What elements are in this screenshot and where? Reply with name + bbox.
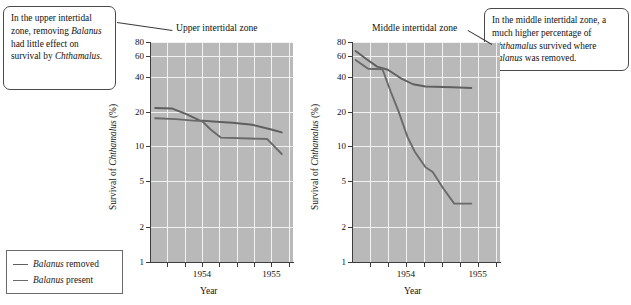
legend-swatch-removed [13,264,28,265]
y-tick-label: 20 [124,107,144,117]
y-tick-label: 10 [124,141,144,151]
y-axis-title: Survival of Chthamalus (%) [310,104,320,210]
x-tick-label: 1954 [397,269,415,279]
legend-label-present: Balanus present [33,275,93,285]
chart-title: Upper intertidal zone [176,22,258,33]
chart-title: Middle intertidal zone [372,22,457,33]
y-tick-label: 10 [326,141,346,151]
x-tick-label: 1954 [193,269,211,279]
x-tick-label: 1955 [262,269,280,279]
series-line [155,118,282,154]
y-tick-label: 80 [326,37,346,47]
plot-area: 125102040608019541955 [352,42,500,262]
series-line [356,60,472,204]
y-tick-label: 2 [124,222,144,232]
y-tick-label: 2 [326,222,346,232]
x-axis-title: Year [404,286,422,296]
y-tick-label: 40 [326,72,346,82]
y-tick-label: 60 [326,51,346,61]
y-tick-label: 5 [124,176,144,186]
series-line [155,108,282,132]
y-tick-label: 1 [326,257,346,267]
x-axis-title: Year [200,286,218,296]
x-axis-line [150,262,294,263]
series-layer [150,42,293,262]
legend-swatch-present [13,280,28,281]
y-tick-label: 40 [124,72,144,82]
series-layer [352,42,500,262]
y-tick-label: 20 [326,107,346,117]
plot-area: 125102040608019541955 [150,42,293,262]
chart-panel-upper-intertidal: Upper intertidal zone1251020406080195419… [96,0,311,305]
x-axis-line [352,262,501,263]
x-tick-label: 1955 [468,269,486,279]
legend-label-removed: Balanus removed [33,259,99,269]
callout-upper-text: In the upper intertidal zone, removing B… [11,13,102,61]
y-tick-label: 1 [124,257,144,267]
y-tick-label: 60 [124,51,144,61]
y-tick-label: 80 [124,37,144,47]
y-axis-title: Survival of Chthamalus (%) [108,104,118,210]
chart-panel-middle-intertidal: Middle intertidal zone125102040608019541… [300,0,560,305]
y-tick-label: 5 [326,176,346,186]
figure-root: In the upper intertidal zone, removing B… [0,0,631,305]
